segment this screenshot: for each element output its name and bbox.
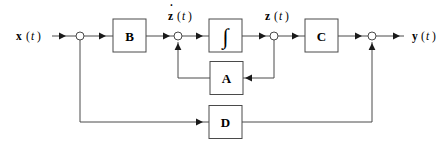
- state-derivative-variable: z: [168, 10, 173, 22]
- output-signal-variable: y: [412, 30, 418, 43]
- state-signal-label: z ( t ): [265, 10, 289, 23]
- arrowhead-output: [393, 33, 400, 40]
- state-signal-variable: z: [265, 10, 270, 22]
- output-signal-label: y ( t ): [412, 30, 436, 43]
- state-derivative-signal-label: ˙ z ( t ): [168, 3, 192, 24]
- arrowhead-into-A: [245, 75, 252, 82]
- arrowhead-branch-node-to-B: [99, 33, 106, 40]
- arrowhead-into-D: [196, 119, 203, 126]
- input-signal-open-paren: (: [26, 30, 30, 43]
- input-branch-node[interactable]: [76, 32, 84, 40]
- integrator-block[interactable]: ∫: [209, 19, 242, 52]
- output-signal-close-paren: ): [432, 30, 436, 43]
- output-matrix-block-label: C: [317, 29, 326, 44]
- state-derivative-argument: t: [182, 10, 186, 22]
- output-matrix-block[interactable]: C: [305, 19, 338, 52]
- state-derivative-sum-node[interactable]: [174, 32, 182, 40]
- input-signal-argument: t: [31, 30, 35, 42]
- state-branch-node[interactable]: [270, 32, 278, 40]
- state-signal-close-paren: ): [285, 10, 289, 23]
- arrowhead-C-to-output-sum-node: [355, 33, 362, 40]
- input-matrix-block-label: B: [125, 29, 134, 44]
- state-derivative-open-paren: (: [177, 10, 181, 23]
- arrowhead-B-to-sum-node: [163, 33, 170, 40]
- state-matrix-block[interactable]: A: [210, 62, 243, 95]
- arrowhead-A-into-sum-node: [175, 43, 182, 50]
- feedthrough-matrix-block[interactable]: D: [209, 106, 242, 139]
- input-signal-variable: x: [16, 30, 22, 42]
- input-matrix-block[interactable]: B: [113, 19, 146, 52]
- state-signal-argument: t: [279, 10, 283, 22]
- input-signal-label: x ( t ): [16, 30, 41, 43]
- output-signal-argument: t: [426, 30, 430, 42]
- arrowhead-D-into-output-sum-node: [369, 43, 376, 50]
- input-signal-close-paren: ): [37, 30, 41, 43]
- state-derivative-close-paren: ): [188, 10, 192, 23]
- arrowhead-state-node-to-C: [292, 33, 299, 40]
- block-diagram-svg: B ∫ C A D x ( t ): [0, 0, 446, 148]
- feedthrough-matrix-block-label: D: [221, 115, 230, 130]
- output-sum-node[interactable]: [368, 32, 376, 40]
- arrowhead-integrator-to-state-node: [259, 33, 266, 40]
- arrowhead-input-to-branch-node: [59, 33, 66, 40]
- block-diagram-canvas: B ∫ C A D x ( t ): [0, 0, 446, 148]
- state-signal-open-paren: (: [274, 10, 278, 23]
- state-matrix-block-label: A: [222, 71, 232, 86]
- arrowhead-sum-node-to-integrator: [196, 33, 203, 40]
- output-signal-open-paren: (: [421, 30, 425, 43]
